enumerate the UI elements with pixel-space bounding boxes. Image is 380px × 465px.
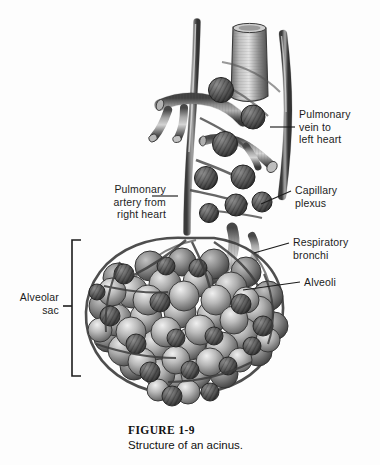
alveolar-sac-bracket xyxy=(63,240,81,376)
label-respiratory-bronchi: Respiratory bronchi xyxy=(293,236,348,261)
label-capillary-plexus: Capillary plexus xyxy=(295,184,337,209)
figure-number: FIGURE 1-9 xyxy=(128,424,368,437)
label-alveolar-sac: Alveolar sac xyxy=(0,291,59,316)
figure-title: Structure of an acinus. xyxy=(128,438,368,452)
figure-caption: FIGURE 1-9 Structure of an acinus. xyxy=(128,424,368,452)
label-alveoli: Alveoli xyxy=(304,276,336,289)
label-pulmonary-artery: Pulmonary artery from right heart xyxy=(6,183,166,221)
acinus-illustration xyxy=(0,0,380,465)
figure-page: Pulmonary vein to left heart Pulmonary a… xyxy=(0,0,380,465)
label-pulmonary-vein: Pulmonary vein to left heart xyxy=(299,108,351,146)
